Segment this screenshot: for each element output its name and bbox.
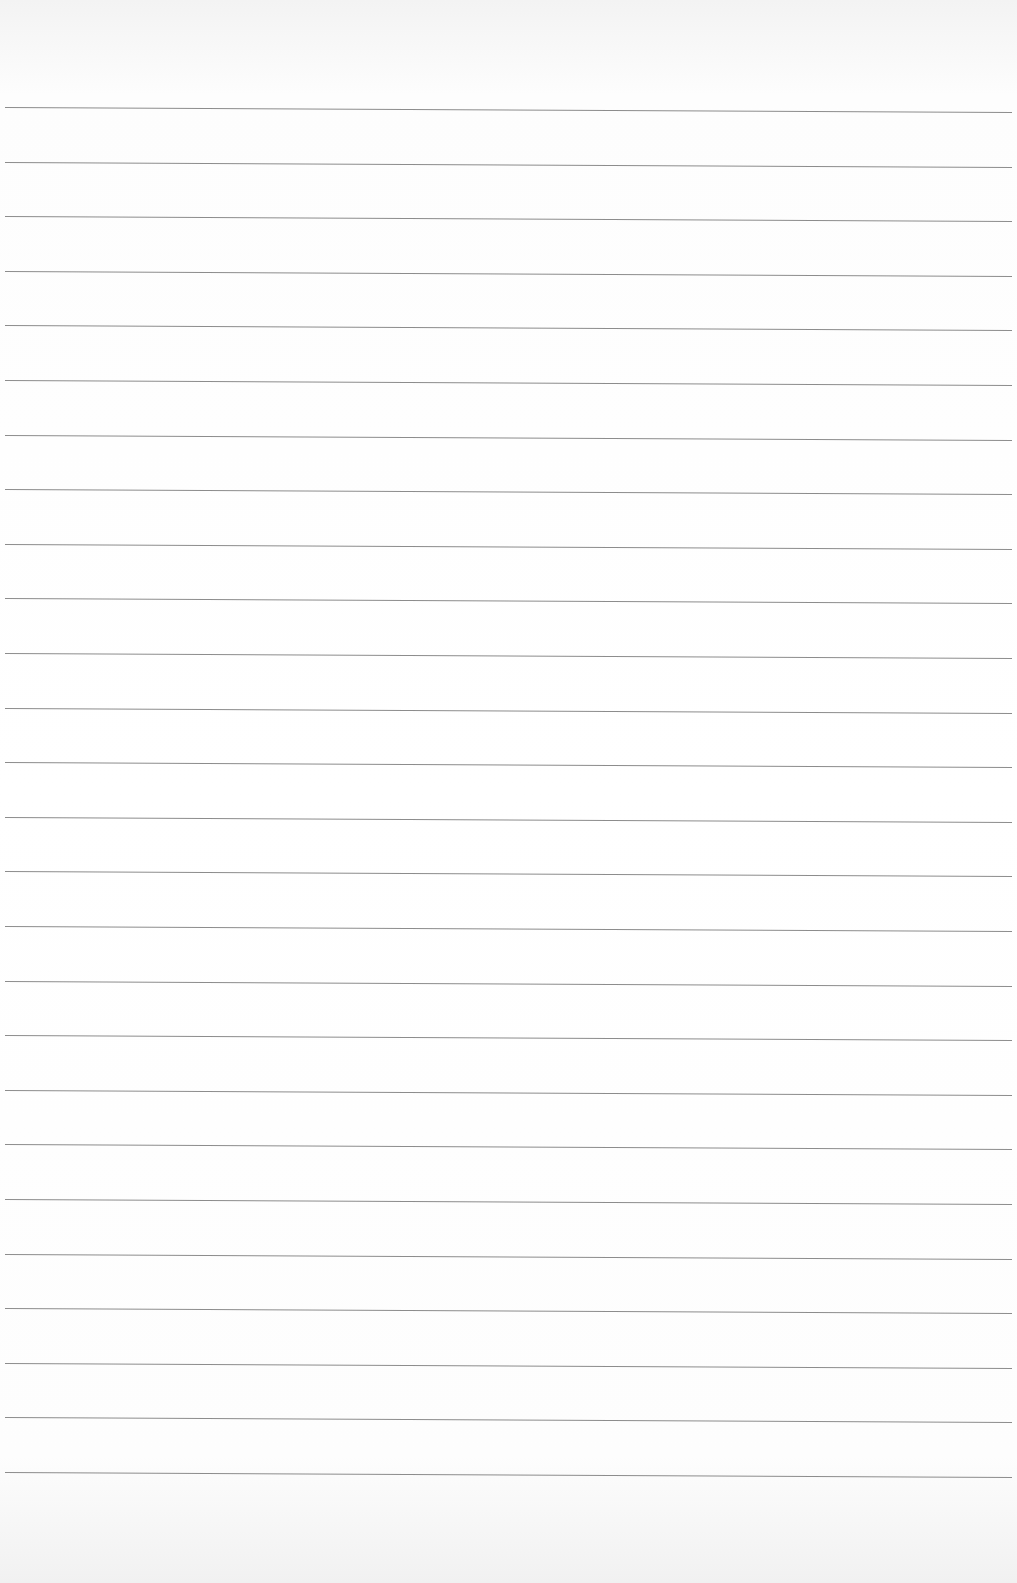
- ruled-line: [5, 1472, 1012, 1478]
- ruled-line: [5, 544, 1012, 550]
- ruled-line: [5, 1308, 1012, 1314]
- ruled-line: [5, 981, 1012, 987]
- ruled-line: [5, 1254, 1012, 1260]
- ruled-line: [5, 435, 1012, 441]
- ruled-line: [5, 1144, 1012, 1150]
- ruled-line: [5, 380, 1012, 386]
- ruled-line: [5, 489, 1012, 495]
- ruled-line: [5, 1090, 1012, 1096]
- ruled-line: [5, 1035, 1012, 1041]
- ruled-line: [5, 162, 1012, 168]
- ruled-line: [5, 708, 1012, 714]
- ruled-line: [5, 1417, 1012, 1423]
- ruled-line: [5, 325, 1012, 331]
- ruled-line: [5, 653, 1012, 659]
- ruled-line: [5, 762, 1012, 768]
- ruled-line: [5, 216, 1012, 222]
- ruled-line: [5, 598, 1012, 604]
- ruled-line: [5, 926, 1012, 932]
- ruled-line: [5, 107, 1012, 113]
- ruled-line: [5, 871, 1012, 877]
- ruled-line: [5, 1363, 1012, 1369]
- lined-paper-sheet: [0, 0, 1017, 1583]
- ruled-line: [5, 271, 1012, 277]
- ruled-line: [5, 1199, 1012, 1205]
- ruled-line: [5, 817, 1012, 823]
